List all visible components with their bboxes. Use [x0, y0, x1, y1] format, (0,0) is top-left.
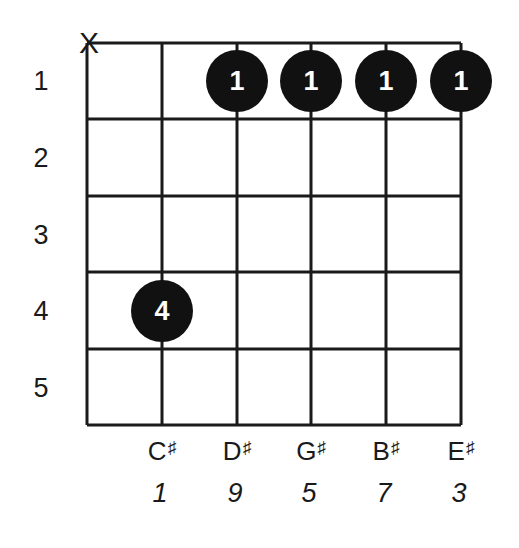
fret-number-1: 1 [26, 68, 56, 95]
muted-string-x-icon: X [74, 28, 104, 58]
finger-dot: 1 [280, 50, 342, 112]
interval-number: 7 [354, 480, 414, 507]
note-name: C♯ [132, 438, 192, 464]
interval-number: 9 [205, 480, 265, 507]
fret-number-2: 2 [26, 145, 56, 172]
fret-number-3: 3 [26, 222, 56, 249]
finger-dot: 1 [206, 50, 268, 112]
interval-number: 3 [429, 480, 489, 507]
chord-diagram: X 1 2 3 4 5 1 1 1 1 4 C♯ D♯ G♯ B♯ E♯ 1 9… [0, 0, 519, 548]
note-name: E♯ [431, 438, 491, 464]
finger-dot: 1 [430, 50, 492, 112]
finger-dot: 1 [355, 50, 417, 112]
note-name: B♯ [356, 438, 416, 464]
fret-number-5: 5 [26, 375, 56, 402]
interval-number: 5 [279, 480, 339, 507]
note-name: D♯ [207, 438, 267, 464]
finger-dot: 4 [131, 280, 193, 342]
interval-number: 1 [130, 480, 190, 507]
note-name: G♯ [281, 438, 341, 464]
fret-number-4: 4 [26, 298, 56, 325]
